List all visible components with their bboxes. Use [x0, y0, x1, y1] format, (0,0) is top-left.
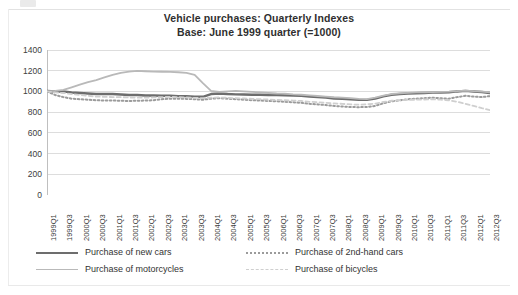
y-axis-tick-label: 800 — [2, 108, 42, 117]
x-axis-tick-label: 2005Q3 — [263, 214, 271, 241]
x-axis-tick-label: 2001Q3 — [132, 214, 140, 241]
x-axis-tick-label: 2008Q3 — [362, 214, 370, 241]
chart-title-block: Vehicle purchases: Quarterly Indexes Bas… — [0, 12, 518, 39]
x-axis-tick-label: 2001Q1 — [116, 214, 124, 241]
x-axis-tick-label: 2002Q3 — [165, 214, 173, 241]
x-axis-tick-label: 2003Q3 — [198, 214, 206, 241]
x-axis-tick-label: 2009Q1 — [378, 214, 386, 241]
x-axis-tick-label: 2004Q3 — [230, 214, 238, 241]
x-axis-tick-label: 2006Q1 — [280, 214, 288, 241]
y-axis-tick-label: 600 — [2, 129, 42, 138]
x-axis-tick-label: 2004Q1 — [214, 214, 222, 241]
legend-label: Purchase of bicycles — [295, 264, 378, 274]
x-axis-tick-labels: 1999Q11999Q32000Q12000Q32001Q12001Q32002… — [47, 197, 490, 243]
x-axis-tick-label: 2012Q1 — [477, 214, 485, 241]
x-axis-tick-label: 2002Q1 — [148, 214, 156, 241]
legend-swatch — [36, 247, 78, 257]
y-axis-tick-label: 0 — [2, 191, 42, 200]
y-axis-tick-label: 1400 — [2, 46, 42, 55]
x-axis-tick-label: 1999Q1 — [50, 214, 58, 241]
chart-card: Vehicle purchases: Quarterly Indexes Bas… — [0, 0, 518, 295]
x-axis-tick-label: 1999Q3 — [66, 214, 74, 241]
x-axis-tick-label: 2011Q1 — [444, 215, 452, 241]
y-axis-tick-label: 200 — [2, 170, 42, 179]
card-bottom-divider — [8, 285, 510, 286]
chart-title: Vehicle purchases: Quarterly Indexes — [0, 12, 518, 26]
chart-legend: Purchase of new carsPurchase of 2nd-hand… — [36, 247, 456, 281]
x-axis-tick-label: 2008Q1 — [345, 214, 353, 241]
x-axis-tick-label: 2011Q3 — [460, 215, 468, 241]
x-axis-tick-label: 2006Q3 — [296, 214, 304, 241]
x-axis-tick-label: 2005Q1 — [247, 214, 255, 241]
x-axis-tick-label: 2009Q3 — [395, 214, 403, 241]
x-axis-tick-label: 2010Q3 — [427, 214, 435, 241]
chart-plot-svg — [47, 50, 490, 195]
card-top-divider — [8, 9, 510, 10]
y-axis-tick-label: 1200 — [2, 67, 42, 76]
legend-item[interactable]: Purchase of new cars — [36, 247, 172, 257]
x-axis-tick-label: 2012Q3 — [493, 214, 501, 241]
y-axis-tick-label: 1000 — [2, 87, 42, 96]
plot-area — [47, 50, 490, 195]
legend-item[interactable]: Purchase of 2nd-hand cars — [246, 247, 403, 257]
x-axis-tick-label: 2007Q1 — [313, 214, 321, 241]
legend-label: Purchase of new cars — [85, 247, 172, 257]
legend-item[interactable]: Purchase of bicycles — [246, 264, 378, 274]
page-artifact-mark — [20, 0, 36, 7]
x-axis-tick-label: 2003Q1 — [181, 214, 189, 241]
x-axis-tick-label: 2000Q3 — [99, 214, 107, 241]
legend-swatch — [246, 247, 288, 257]
x-axis-tick-label: 2007Q3 — [329, 214, 337, 241]
legend-swatch — [36, 264, 78, 274]
legend-label: Purchase of 2nd-hand cars — [295, 247, 403, 257]
y-axis-tick-label: 400 — [2, 150, 42, 159]
x-axis-tick-label: 2000Q1 — [83, 214, 91, 241]
legend-label: Purchase of motorcycles — [85, 264, 184, 274]
legend-item[interactable]: Purchase of motorcycles — [36, 264, 184, 274]
legend-swatch — [246, 264, 288, 274]
x-axis-tick-label: 2010Q1 — [411, 214, 419, 241]
chart-subtitle: Base: June 1999 quarter (=1000) — [0, 26, 518, 40]
